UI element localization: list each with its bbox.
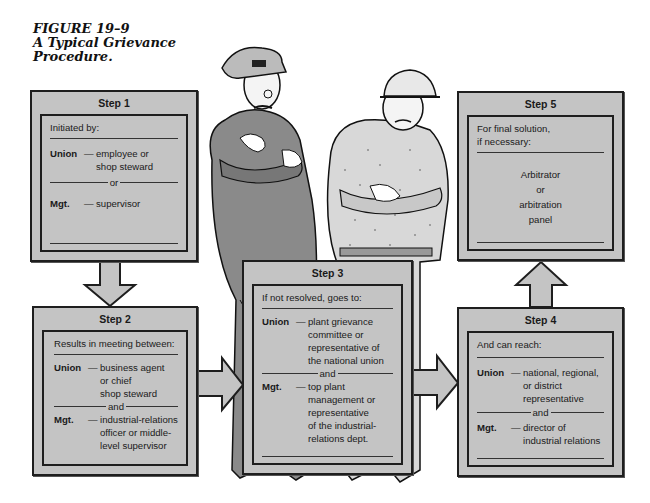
union-row: Union — national, regional, or district … [477, 366, 604, 405]
step-intro: For final solution, if necessary: [477, 122, 604, 153]
mgt-value: top plant management or representative o… [308, 380, 393, 445]
step-content: Results in meeting between: Union — busi… [42, 330, 188, 466]
mgt-label: Mgt. [54, 413, 88, 452]
union-row: Union — business agent or chief shop ste… [54, 361, 178, 400]
mgt-label: Mgt. [262, 380, 296, 445]
divider [477, 242, 604, 243]
mgt-row: Mgt. — supervisor [50, 197, 178, 210]
step-content: For final solution, if necessary: Arbitr… [467, 115, 614, 251]
union-value: business agent or chief shop steward [100, 361, 178, 400]
mgt-label: Mgt. [50, 197, 84, 210]
step-title: Step 1 [32, 97, 196, 109]
mgt-value: director of industrial relations [523, 421, 604, 447]
final-resolution: Arbitrator or arbitration panel [477, 167, 604, 227]
union-value: national, regional, or district represen… [523, 366, 604, 405]
connector: and [477, 406, 604, 419]
connector: or [50, 176, 178, 189]
divider [262, 456, 393, 457]
union-value: plant grievance committee or representat… [308, 315, 393, 367]
step-1-box: Step 1 Initiated by: Union — employee or… [30, 90, 198, 262]
step-intro: If not resolved, goes to: [262, 291, 393, 309]
union-label: Union [477, 366, 511, 405]
step-3-box: Step 3 If not resolved, goes to: Union —… [242, 260, 413, 475]
union-label: Union [262, 315, 296, 367]
union-row: Union — employee or shop steward [50, 147, 178, 173]
step-intro: And can reach: [477, 338, 604, 358]
step-title: Step 4 [459, 314, 622, 326]
step-intro: Initiated by: [50, 121, 178, 139]
connector: and [262, 367, 393, 380]
mgt-row: Mgt. — director of industrial relations [477, 421, 604, 447]
step-content: And can reach: Union — national, regiona… [467, 331, 614, 467]
divider [50, 243, 178, 244]
mgt-value: industrial-relations officer or middle- … [100, 413, 178, 452]
step-2-box: Step 2 Results in meeting between: Union… [32, 306, 198, 476]
union-label: Union [54, 361, 88, 400]
step-5-box: Step 5 For final solution, if necessary:… [457, 91, 624, 261]
mgt-value: supervisor [96, 197, 178, 210]
connector: and [54, 400, 178, 413]
mgt-row: Mgt. — top plant management or represent… [262, 380, 393, 445]
union-value: employee or shop steward [96, 147, 178, 173]
step-4-box: Step 4 And can reach: Union — national, … [457, 307, 624, 477]
step-content: Initiated by: Union — employee or shop s… [40, 114, 188, 252]
step-title: Step 5 [459, 98, 622, 110]
mgt-label: Mgt. [477, 421, 511, 447]
step-title: Step 3 [244, 267, 411, 279]
union-label: Union [50, 147, 84, 173]
divider [477, 458, 604, 459]
mgt-row: Mgt. — industrial-relations officer or m… [54, 413, 178, 452]
union-row: Union — plant grievance committee or rep… [262, 315, 393, 367]
step-content: If not resolved, goes to: Union — plant … [252, 284, 403, 465]
step-intro: Results in meeting between: [54, 337, 178, 355]
step-title: Step 2 [34, 313, 196, 325]
